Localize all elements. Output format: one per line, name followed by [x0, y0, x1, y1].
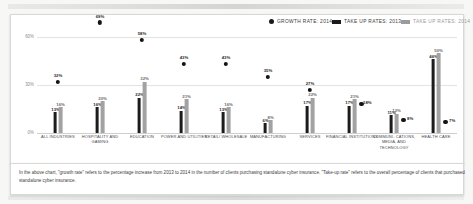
growth-rate-value-label: 27%: [306, 81, 315, 86]
bars: 13%16%: [54, 37, 63, 133]
bar-group[interactable]: 17%22%27%: [289, 37, 331, 133]
growth-rate-value-label: 58%: [138, 31, 147, 36]
bar[interactable]: 46%: [432, 59, 435, 133]
bar[interactable]: 50%: [437, 53, 440, 133]
bar-group[interactable]: 46%50%7%: [415, 37, 457, 133]
bar-value-label: 16%: [224, 102, 233, 107]
bar-group[interactable]: 16%20%69%: [79, 37, 121, 133]
bars: 16%20%: [96, 37, 105, 133]
bar-value-label: 20%: [98, 95, 107, 100]
growth-rate-value-label: 43%: [222, 55, 231, 60]
bar[interactable]: 17%: [306, 106, 309, 133]
growth-rate-value-label: 18%: [363, 101, 372, 106]
growth-rate-value-label: 32%: [54, 73, 63, 78]
bar-value-label: 21%: [182, 94, 191, 99]
y-axis-tick-label: 0%: [7, 130, 34, 135]
bars: 13%16%: [222, 37, 231, 133]
legend-item-growth-rate-2014[interactable]: GROWTH RATE: 2014: [269, 19, 318, 24]
bar[interactable]: 16%: [96, 107, 99, 133]
bar[interactable]: 12%: [395, 114, 398, 133]
bar[interactable]: 16%: [227, 107, 230, 133]
bar[interactable]: 14%: [180, 111, 183, 133]
growth-rate-value-label: 7%: [449, 118, 455, 123]
bars: 17%21%: [348, 37, 357, 133]
bar[interactable]: 21%: [185, 99, 188, 133]
bars: 22%32%: [138, 37, 147, 133]
plot-area: 60%30%0%13%16%32%16%20%69%22%32%58%14%21…: [37, 37, 457, 133]
growth-rate-value-label: 8%: [407, 117, 413, 122]
growth-rate-value-label: 43%: [180, 55, 189, 60]
bar-group[interactable]: 11%12%8%: [373, 37, 415, 133]
legend-label: TAKE UP RATES: 2013: [344, 19, 401, 24]
y-axis-tick-label: 60%: [7, 34, 34, 39]
bar-value-label: 8%: [268, 115, 274, 120]
legend-label: TAKE UP RATES: 2014: [413, 19, 470, 24]
bar-swatch-icon: [401, 20, 410, 24]
bar-group[interactable]: 22%32%58%: [121, 37, 163, 133]
bar[interactable]: 17%: [348, 106, 351, 133]
bar-swatch-icon: [332, 20, 341, 24]
bar[interactable]: 32%: [143, 82, 146, 133]
bars: 46%50%: [432, 37, 441, 133]
bar-group[interactable]: 6%8%35%: [247, 37, 289, 133]
bar[interactable]: 22%: [311, 98, 314, 133]
bars: 11%12%: [390, 37, 399, 133]
bar-value-label: 21%: [350, 94, 359, 99]
legend-label: GROWTH RATE: 2014: [277, 19, 332, 24]
growth-rate-point[interactable]: [98, 20, 102, 24]
bar-value-label: 50%: [434, 47, 443, 52]
bar-value-label: 22%: [308, 92, 317, 97]
bar-group[interactable]: 13%16%32%: [37, 37, 79, 133]
bars: 6%8%: [264, 37, 273, 133]
screenshot-root: GROWTH RATE: 2014 TAKE UP RATES: 2013 TA…: [0, 0, 473, 204]
scan-streak-bottom: [8, 196, 464, 200]
footnote-text: In the above chart, "growth rate" refers…: [19, 169, 466, 185]
bar[interactable]: 21%: [353, 99, 356, 133]
bar-value-label: 16%: [56, 102, 65, 107]
chart-legend: GROWTH RATE: 2014 TAKE UP RATES: 2013 TA…: [269, 19, 455, 24]
legend-item-take-up-rates-2014[interactable]: TAKE UP RATES: 2014: [401, 20, 456, 24]
bar[interactable]: 13%: [222, 112, 225, 133]
bars: 14%21%: [180, 37, 189, 133]
bar-group[interactable]: 14%21%43%: [163, 37, 205, 133]
bar[interactable]: 8%: [269, 120, 272, 133]
bar[interactable]: 6%: [264, 123, 267, 133]
bar[interactable]: 11%: [390, 115, 393, 133]
bar-groups: 13%16%32%16%20%69%22%32%58%14%21%43%13%1…: [37, 37, 457, 133]
bar[interactable]: 13%: [54, 112, 57, 133]
bar-group[interactable]: 13%16%43%: [205, 37, 247, 133]
footnote-card: In the above chart, "growth rate" refers…: [10, 163, 464, 195]
legend-item-take-up-rates-2013[interactable]: TAKE UP RATES: 2013: [332, 20, 387, 24]
chart-card: GROWTH RATE: 2014 TAKE UP RATES: 2013 TA…: [10, 14, 464, 164]
circle-marker-icon: [269, 19, 274, 24]
growth-rate-point[interactable]: [401, 118, 405, 122]
y-axis-tick-label: 30%: [7, 82, 34, 87]
bar-value-label: 32%: [140, 76, 149, 81]
bar[interactable]: 22%: [138, 98, 141, 133]
growth-rate-value-label: 35%: [264, 68, 273, 73]
x-axis-labels: ALL INDUSTRIESHOSPITALITY AND GAMINGEDUC…: [37, 134, 457, 164]
bar[interactable]: 16%: [59, 107, 62, 133]
bar-group[interactable]: 17%21%18%: [331, 37, 373, 133]
bar-value-label: 12%: [392, 108, 401, 113]
growth-rate-point[interactable]: [443, 120, 447, 124]
scan-streak-top: [8, 4, 464, 9]
bar[interactable]: 20%: [101, 101, 104, 133]
growth-rate-value-label: 69%: [96, 13, 105, 18]
